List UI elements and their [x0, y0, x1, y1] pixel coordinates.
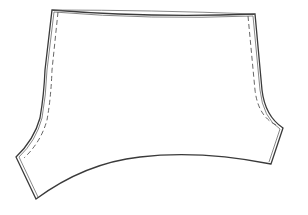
shorts-outline — [16, 10, 283, 199]
shorts-flat-sketch — [0, 0, 308, 215]
